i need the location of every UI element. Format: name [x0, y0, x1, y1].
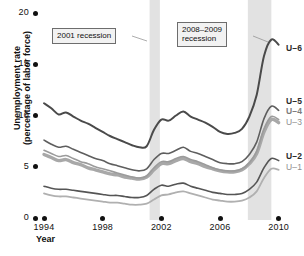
x-tick-dot-2006: [218, 216, 223, 221]
series-label-u-3: U–3: [286, 118, 302, 127]
unemployment-rate-chart: 05101520 19941998200220062010 Unemployme…: [0, 0, 304, 256]
y-axis-label-line1: Unemployment rate: [12, 28, 22, 148]
y-tick-dot-20: [33, 11, 38, 16]
series-label-u-2: U–2: [286, 152, 302, 161]
annotation-2001-recession: 2001 recession: [52, 28, 116, 44]
annotation-2001-line1: 2001 recession: [57, 31, 111, 40]
y-tick-label-5: 5: [11, 161, 29, 171]
series-label-u-6: U–6: [286, 44, 302, 53]
x-tick-dot-2010: [276, 216, 281, 221]
x-tick-label-2002: 2002: [144, 222, 178, 232]
leader-line-2001: [132, 36, 147, 41]
series-lines: [44, 39, 279, 205]
x-tick-dot-1998: [100, 216, 105, 221]
annotation-2008-line1: 2008–2009: [182, 25, 222, 34]
x-tick-label-2010: 2010: [262, 222, 296, 232]
y-tick-label-0: 0: [11, 212, 29, 222]
series-label-u-4: U–4: [286, 107, 302, 116]
annotation-2008-line2: recession: [182, 34, 222, 43]
y-tick-dot-0: [33, 216, 38, 221]
y-axis-label-line2: (percentage of labor force): [22, 28, 32, 148]
x-tick-label-1998: 1998: [86, 222, 120, 232]
line-u-1: [44, 168, 279, 204]
y-axis-label: Unemployment rate (percentage of labor f…: [12, 28, 32, 148]
x-tick-dot-1994: [42, 216, 47, 221]
x-tick-label-2006: 2006: [203, 222, 237, 232]
y-tick-dot-10: [33, 113, 38, 118]
x-tick-dot-2002: [159, 216, 164, 221]
annotation-2008-recession: 2008–2009 recession: [177, 22, 227, 47]
y-tick-label-20: 20: [11, 7, 29, 17]
series-label-u-1: U–1: [286, 163, 302, 172]
y-tick-dot-15: [33, 62, 38, 67]
series-label-u-5: U–5: [286, 97, 302, 106]
x-tick-label-1994: 1994: [27, 222, 61, 232]
x-axis-label: Year: [36, 234, 55, 244]
line-u-6: [44, 39, 279, 148]
